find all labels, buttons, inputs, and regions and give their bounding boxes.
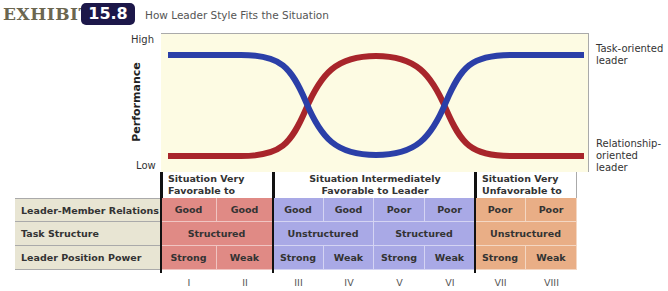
cell-lpp-IV: Weak (324, 246, 374, 270)
cell-lmr-VI: Poor (425, 198, 475, 222)
legend-rel-line2: oriented (596, 150, 661, 162)
chart-title: How Leader Style Fits the Situation (145, 9, 329, 21)
cell-lpp-III: Strong (273, 246, 324, 270)
task-oriented-line (168, 55, 584, 155)
cell-ts-V-VI: Structured (374, 222, 475, 246)
numeral-I: I (161, 277, 217, 288)
group-header-very-favorable: Situation Very Favorable to Leader (161, 172, 273, 198)
legend-relationship-oriented: Relationship- oriented leader (596, 138, 661, 174)
legend-rel-line3: leader (596, 162, 661, 174)
cell-lmr-V: Poor (374, 198, 425, 222)
plot-area (161, 33, 589, 172)
divider-1 (272, 172, 274, 273)
group-header-intermediate: Situation Intermediately Favorable to Le… (273, 172, 475, 198)
cell-lmr-I: Good (161, 198, 217, 222)
numeral-II: II (217, 277, 273, 288)
cell-lmr-VIII: Poor (526, 198, 577, 222)
row-label-position-power: Leader Position Power (15, 246, 161, 270)
cell-lpp-VI: Weak (425, 246, 475, 270)
exhibit-label: EXHIBIT (3, 4, 92, 24)
group-header-line1: Situation Intermediately (275, 173, 475, 185)
y-axis-label: Performance (130, 62, 143, 141)
numeral-IV: IV (324, 277, 374, 288)
group-header-line1: Situation Very (482, 173, 576, 185)
cell-lpp-VII: Strong (475, 246, 526, 270)
row-label-leader-member-relations: Leader-Member Relations (15, 198, 161, 222)
legend-task-line2: leader (596, 55, 663, 67)
legend-task-line1: Task-oriented (596, 43, 663, 55)
numeral-VII: VII (475, 277, 526, 288)
cell-lmr-IV: Good (324, 198, 374, 222)
performance-curves (161, 34, 589, 173)
cell-lmr-II: Good (217, 198, 273, 222)
y-tick-high: High (131, 34, 154, 45)
relationship-oriented-line (168, 56, 584, 156)
divider-left (160, 172, 162, 273)
cell-lpp-II: Weak (217, 246, 273, 270)
cell-lmr-III: Good (273, 198, 324, 222)
cell-lpp-VIII: Weak (526, 246, 577, 270)
group-header-very-unfavorable: Situation Very Unfavorable to Leader (475, 172, 577, 198)
divider-2 (474, 172, 476, 273)
row-label-task-structure: Task Structure (15, 222, 161, 246)
y-tick-low: Low (136, 160, 156, 171)
legend-rel-line1: Relationship- (596, 138, 661, 150)
cell-lpp-I: Strong (161, 246, 217, 270)
group-header-line1: Situation Very (168, 173, 273, 185)
legend-task-oriented: Task-oriented leader (596, 43, 663, 67)
cell-ts-I-II: Structured (161, 222, 273, 246)
cell-lpp-V: Strong (374, 246, 425, 270)
numeral-III: III (273, 277, 324, 288)
exhibit-number-badge: 15.8 (81, 3, 135, 25)
group-header-line2: Favorable to Leader (275, 185, 475, 197)
cell-lmr-VII: Poor (475, 198, 526, 222)
numeral-VIII: VIII (526, 277, 577, 288)
cell-ts-III-IV: Unstructured (273, 222, 374, 246)
numeral-VI: VI (425, 277, 475, 288)
cell-ts-VII-VIII: Unstructured (475, 222, 577, 246)
numeral-V: V (374, 277, 425, 288)
